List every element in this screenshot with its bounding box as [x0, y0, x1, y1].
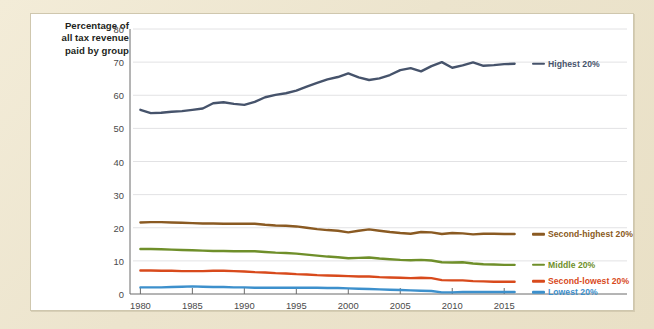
chart-page: Percentage of all tax revenue paid by gr… — [0, 0, 654, 329]
y-tick-label: 50 — [98, 123, 124, 134]
y-tick-label: 40 — [98, 156, 124, 167]
y-tick-label: 70 — [98, 57, 124, 68]
series-label: Second-highest 20% — [548, 229, 633, 239]
legend-swatch-2 — [532, 233, 545, 236]
y-tick-label: 30 — [98, 189, 124, 200]
series-label: Middle 20% — [548, 260, 595, 270]
legend-swatch-5 — [532, 291, 545, 294]
x-tick-label: 1980 — [118, 300, 162, 311]
x-tick-label: 1990 — [222, 300, 266, 311]
series-label: Lowest 20% — [548, 287, 598, 297]
legend-swatch-1 — [532, 62, 545, 65]
legend-swatch-4 — [532, 280, 545, 283]
chart-panel: Percentage of all tax revenue paid by gr… — [30, 13, 634, 311]
x-tick-label: 2000 — [326, 300, 370, 311]
x-tick-label: 1985 — [170, 300, 214, 311]
x-tick-label: 2015 — [482, 300, 526, 311]
y-tick-label: 10 — [98, 255, 124, 266]
legend-swatch-3 — [532, 264, 545, 267]
y-tick-label: 0 — [98, 289, 124, 300]
x-tick-label: 2005 — [378, 300, 422, 311]
series-label: Second-lowest 20% — [548, 276, 629, 286]
y-tick-label: 80 — [98, 24, 124, 35]
y-tick-label: 60 — [98, 90, 124, 101]
series-label: Highest 20% — [548, 59, 600, 69]
x-tick-label: 2010 — [430, 300, 474, 311]
x-tick-label: 1995 — [274, 300, 318, 311]
y-tick-label: 20 — [98, 222, 124, 233]
